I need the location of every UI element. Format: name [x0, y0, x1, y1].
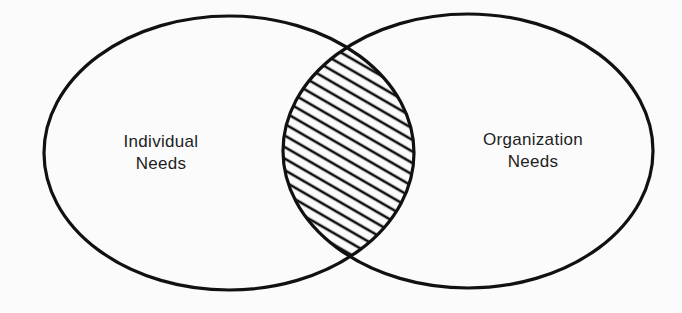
individual-needs-label-line1: Individual [124, 132, 199, 151]
venn-diagram: Individual Needs Organization Needs [0, 0, 682, 313]
organization-needs-label-line1: Organization [483, 130, 583, 149]
organization-needs-label-line2: Needs [508, 152, 559, 171]
individual-needs-label-line2: Needs [136, 154, 187, 173]
